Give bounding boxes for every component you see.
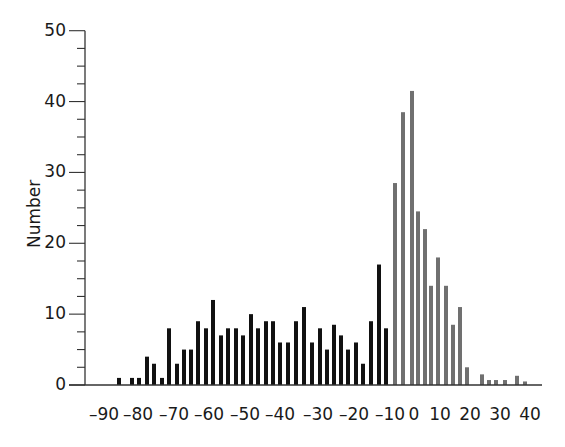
histogram-bar xyxy=(234,328,238,385)
histogram-bar xyxy=(226,328,230,385)
histogram-bar xyxy=(249,314,253,385)
histogram-bar xyxy=(410,91,414,385)
histogram-bar xyxy=(515,376,519,385)
histogram-bar xyxy=(241,335,245,385)
histogram-bar xyxy=(175,364,179,385)
x-tick-label: –20 xyxy=(334,404,374,424)
x-tick-label: –40 xyxy=(260,404,300,424)
histogram-bar xyxy=(480,374,484,385)
histogram-bar xyxy=(256,328,260,385)
histogram-bar xyxy=(152,364,156,385)
histogram-bar xyxy=(160,378,164,385)
histogram-bar xyxy=(271,321,275,385)
x-tick-label: –80 xyxy=(118,404,158,424)
x-tick-label: –30 xyxy=(298,404,338,424)
histogram-bar xyxy=(264,321,268,385)
x-tick-label: –50 xyxy=(225,404,265,424)
histogram-bar xyxy=(302,307,306,385)
plot-area xyxy=(0,0,565,447)
y-tick-label: 50 xyxy=(36,21,66,39)
histogram-bar xyxy=(219,335,223,385)
histogram-bar xyxy=(451,325,455,385)
histogram-bar xyxy=(458,307,462,385)
histogram-bar xyxy=(182,350,186,385)
histogram-bar xyxy=(401,112,405,385)
x-tick-label: –70 xyxy=(154,404,194,424)
histogram-bar xyxy=(286,342,290,385)
histogram-bar xyxy=(444,286,448,385)
histogram-bar xyxy=(145,357,149,385)
histogram-bar xyxy=(429,286,433,385)
y-tick-label: 20 xyxy=(36,233,66,251)
histogram-bar xyxy=(211,300,215,385)
histogram-bar xyxy=(137,378,141,385)
histogram-bar xyxy=(503,380,507,385)
histogram-bar xyxy=(346,350,350,385)
histogram-bar xyxy=(117,378,121,385)
histogram-bar xyxy=(377,265,381,385)
histogram-bar xyxy=(436,257,440,385)
y-tick-label: 40 xyxy=(36,92,66,110)
histogram-bar xyxy=(416,211,420,385)
histogram-bar xyxy=(361,364,365,385)
histogram-bar xyxy=(465,367,469,385)
x-tick-label: 40 xyxy=(510,404,550,424)
y-tick-label: 0 xyxy=(36,375,66,393)
histogram-bar xyxy=(204,328,208,385)
histogram-bar xyxy=(318,328,322,385)
histogram-bar xyxy=(487,380,491,385)
histogram-bar xyxy=(189,350,193,385)
x-tick-label: –60 xyxy=(189,404,229,424)
histogram-bar xyxy=(354,342,358,385)
histogram-bar xyxy=(494,380,498,385)
histogram-bar xyxy=(369,321,373,385)
histogram-bar xyxy=(167,328,171,385)
histogram-bar xyxy=(393,183,397,385)
histogram-bar xyxy=(332,325,336,385)
histogram-chart: Number 01020304050 –90–80–70–60–50–40–30… xyxy=(0,0,565,447)
histogram-bar xyxy=(130,378,134,385)
histogram-bar xyxy=(278,342,282,385)
y-tick-label: 10 xyxy=(36,304,66,322)
histogram-bar xyxy=(423,229,427,385)
histogram-bar xyxy=(339,335,343,385)
histogram-bar xyxy=(384,328,388,385)
histogram-bar xyxy=(196,321,200,385)
y-tick-label: 30 xyxy=(36,162,66,180)
histogram-bar xyxy=(294,321,298,385)
histogram-bar xyxy=(310,342,314,385)
histogram-bar xyxy=(325,350,329,385)
